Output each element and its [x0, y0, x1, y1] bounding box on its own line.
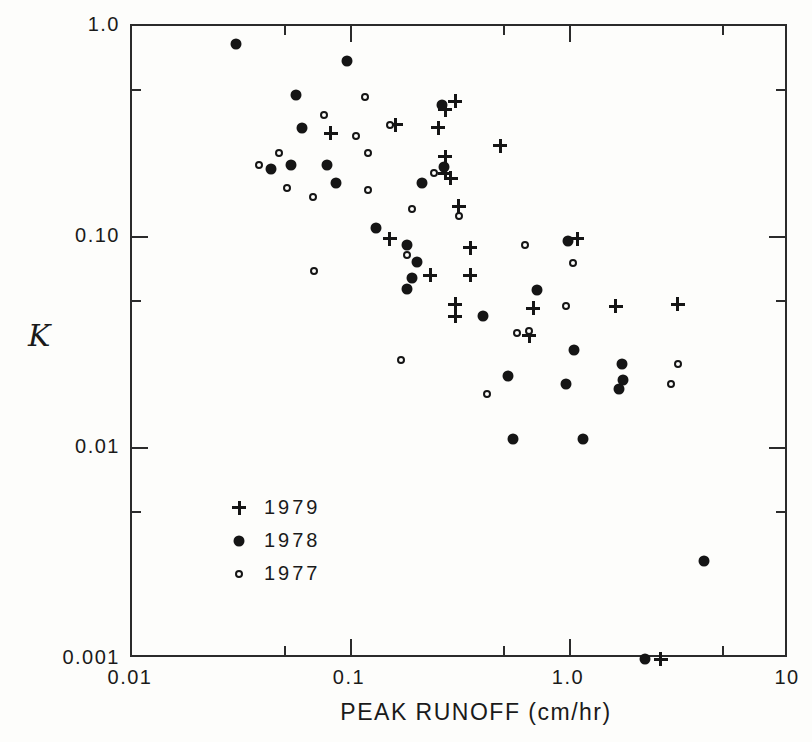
data-point-1978	[502, 370, 513, 381]
y-major-tick	[132, 236, 148, 238]
data-point-1978	[436, 100, 447, 111]
data-point-1977	[521, 241, 529, 249]
x-minor-tick	[284, 26, 286, 35]
data-point-1978	[330, 178, 341, 189]
data-point-1978	[285, 159, 296, 170]
data-point-1979	[444, 171, 458, 185]
data-point-1977	[403, 251, 411, 259]
data-point-1978	[265, 164, 276, 175]
data-point-1979	[463, 268, 477, 282]
data-point-1977	[352, 132, 360, 140]
data-point-1979	[383, 232, 397, 246]
data-point-1977	[386, 121, 394, 129]
y-minor-tick	[132, 511, 141, 513]
data-point-1977	[275, 149, 283, 157]
x-tick-label: 10	[774, 666, 799, 688]
y-minor-tick	[776, 300, 785, 302]
data-point-1979	[526, 301, 540, 315]
data-point-1978	[438, 161, 449, 172]
x-major-tick	[350, 26, 352, 42]
data-point-1979	[671, 297, 685, 311]
data-point-1978	[532, 285, 543, 296]
legend-item-1978: 1978	[226, 524, 321, 557]
data-point-1977	[361, 93, 369, 101]
data-point-1978	[342, 56, 353, 67]
y-tick-label: 1.0	[0, 13, 120, 35]
scatter-figure: K PEAK RUNOFF (cm/hr) 1.00.100.010.001 0…	[0, 0, 812, 742]
x-major-tick	[569, 26, 571, 42]
y-tick-label: 0.001	[0, 646, 120, 668]
data-point-1978	[699, 556, 710, 567]
data-point-1977	[674, 360, 682, 368]
data-point-1978	[617, 359, 628, 370]
data-point-1978	[411, 257, 422, 268]
data-point-1979	[654, 652, 668, 666]
data-point-1977	[569, 259, 577, 267]
data-point-1978	[561, 379, 572, 390]
data-point-1977	[430, 169, 438, 177]
x-minor-tick	[503, 26, 505, 35]
x-minor-tick	[722, 646, 724, 655]
legend-item-1979: 1979	[226, 491, 321, 524]
y-minor-tick	[132, 89, 141, 91]
data-point-1978	[401, 239, 412, 250]
y-minor-tick	[776, 511, 785, 513]
data-point-1979	[448, 309, 462, 323]
data-point-1977	[310, 267, 318, 275]
data-point-1978	[290, 90, 301, 101]
y-major-tick	[132, 447, 148, 449]
data-point-1978	[477, 311, 488, 322]
x-major-tick	[350, 639, 352, 655]
x-tick-label: 0.01	[108, 666, 153, 688]
legend-label: 1977	[264, 562, 321, 585]
open-circle-icon	[226, 561, 252, 587]
data-point-1977	[562, 302, 570, 310]
data-point-1977	[667, 380, 675, 388]
data-point-1977	[455, 212, 463, 220]
y-tick-label: 0.10	[0, 224, 120, 246]
filled-circle-icon	[226, 528, 252, 554]
data-point-1977	[364, 186, 372, 194]
data-point-1978	[563, 235, 574, 246]
y-major-tick	[769, 447, 785, 449]
data-point-1978	[370, 223, 381, 234]
data-point-1979	[463, 241, 477, 255]
y-minor-tick	[776, 89, 785, 91]
data-point-1978	[231, 39, 242, 50]
x-minor-tick	[503, 646, 505, 655]
legend-label: 1978	[264, 529, 321, 552]
data-point-1979	[493, 139, 507, 153]
y-minor-tick	[132, 300, 141, 302]
y-axis-title: K	[28, 318, 50, 353]
data-point-1978	[407, 272, 418, 283]
data-point-1979	[324, 126, 338, 140]
data-point-1978	[639, 654, 650, 665]
data-point-1979	[609, 299, 623, 313]
data-point-1977	[283, 184, 291, 192]
legend-label: 1979	[264, 496, 321, 519]
x-minor-tick	[284, 646, 286, 655]
data-point-1979	[448, 94, 462, 108]
data-point-1977	[397, 356, 405, 364]
data-point-1977	[364, 149, 372, 157]
data-point-1978	[297, 122, 308, 133]
data-point-1977	[255, 161, 263, 169]
data-point-1979	[423, 268, 437, 282]
data-point-1978	[401, 283, 412, 294]
data-point-1977	[483, 390, 491, 398]
data-point-1979	[431, 121, 445, 135]
x-tick-label: 1.0	[552, 666, 584, 688]
data-point-1978	[416, 178, 427, 189]
data-point-1978	[508, 434, 519, 445]
x-tick-label: 0.1	[333, 666, 365, 688]
x-major-tick	[569, 639, 571, 655]
data-point-1977	[309, 193, 317, 201]
legend-item-1977: 1977	[226, 557, 321, 590]
x-axis-title: PEAK RUNOFF (cm/hr)	[340, 699, 611, 726]
data-point-1977	[513, 329, 521, 337]
legend: 197919781977	[226, 491, 321, 590]
y-major-tick	[769, 236, 785, 238]
data-point-1978	[568, 345, 579, 356]
data-point-1977	[525, 327, 533, 335]
plus-icon	[226, 495, 252, 521]
